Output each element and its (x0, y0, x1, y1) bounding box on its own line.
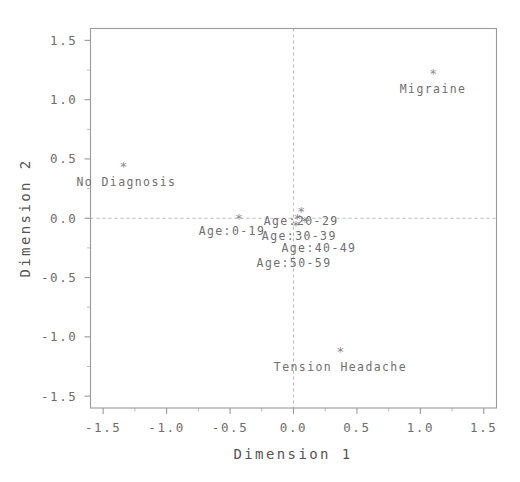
y-tick-label: 0.5 (50, 151, 77, 166)
point-marker-asterisk: * (429, 66, 437, 81)
x-tick-label: -0.5 (212, 420, 249, 435)
x-tick-label: 1.0 (407, 420, 434, 435)
point-label: Migraine (400, 82, 467, 96)
y-tick-label: 1.0 (50, 92, 77, 107)
x-tick-label: 1.5 (470, 420, 497, 435)
plot-background (0, 0, 520, 482)
x-tick-label: 0.5 (343, 420, 370, 435)
x-tick-label: -1.0 (148, 420, 185, 435)
y-axis-title: Dimension 2 (17, 158, 33, 277)
x-tick-label: 0.0 (280, 420, 307, 435)
x-tick-label: -1.5 (85, 420, 122, 435)
y-tick-label: -1.5 (41, 389, 78, 404)
y-tick-label: -0.5 (41, 270, 78, 285)
y-tick-label: -1.0 (41, 329, 78, 344)
y-tick-label: 1.5 (50, 33, 77, 48)
point-label: Age:40-49 (281, 241, 356, 255)
point-marker-asterisk: * (120, 159, 128, 174)
point-label: Tension Headache (274, 360, 407, 374)
x-axis-title: Dimension 1 (233, 446, 352, 462)
y-tick-label: 0.0 (50, 211, 77, 226)
correspondence-analysis-plot: -1.5-1.0-0.50.00.51.01.5 1.51.00.50.0-0.… (0, 0, 520, 482)
scatter-plot-canvas: -1.5-1.0-0.50.00.51.01.5 1.51.00.50.0-0.… (0, 0, 520, 482)
point-label: Age:50-59 (257, 256, 332, 270)
point-marker-asterisk: * (337, 344, 345, 359)
point-label: No Diagnosis (77, 175, 177, 189)
point-marker-asterisk: * (292, 218, 300, 233)
point-label: Age:0-19 (199, 224, 266, 238)
point-marker-asterisk: * (301, 214, 309, 229)
